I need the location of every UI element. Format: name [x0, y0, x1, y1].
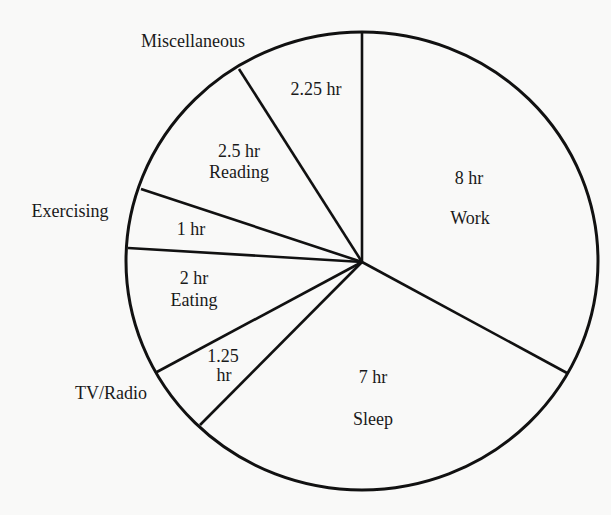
slice-reading-label: Reading: [209, 162, 269, 182]
slice-misc-value: 2.25 hr: [291, 79, 342, 99]
slice-exercising-value: 1 hr: [177, 219, 206, 239]
boundary-work-sleep: [362, 262, 567, 373]
slice-reading-value: 2.5 hr: [218, 141, 260, 161]
pie-chart: 8 hr Work 7 hr Sleep 1.25 hr TV/Radio 2 …: [0, 0, 611, 515]
slice-sleep-label: Sleep: [353, 409, 393, 429]
slice-exercising: 1 hr Exercising: [32, 201, 206, 239]
slice-work-value: 8 hr: [455, 168, 484, 188]
slice-sleep: 7 hr Sleep: [353, 367, 393, 429]
slice-work-label: Work: [450, 208, 490, 228]
slice-eating: 2 hr Eating: [171, 268, 218, 310]
slice-eating-value: 2 hr: [180, 268, 209, 288]
slice-reading: 2.5 hr Reading: [209, 141, 269, 182]
slice-tvradio-label: TV/Radio: [75, 383, 147, 403]
slice-tvradio-value-line1: 1.25: [207, 346, 239, 366]
slice-misc-label: Miscellaneous: [141, 31, 245, 51]
slice-sleep-value: 7 hr: [359, 367, 388, 387]
slice-eating-label: Eating: [171, 290, 218, 310]
boundary-sleep-tvradio: [200, 262, 362, 425]
slice-exercising-label: Exercising: [32, 201, 109, 221]
slice-work: 8 hr Work: [450, 168, 490, 228]
slice-tvradio-value-line2: hr: [217, 365, 232, 385]
